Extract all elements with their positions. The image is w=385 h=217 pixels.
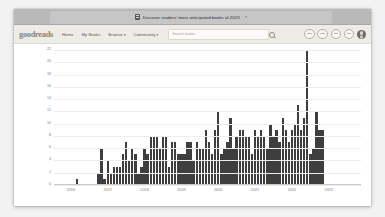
chart-bar[interactable] — [177, 154, 179, 185]
browser-tab-title: Discover readers' most anticipated books… — [143, 15, 240, 20]
nav-item-browse-label: Browse — [108, 32, 122, 37]
gridline — [54, 173, 361, 174]
nav-item-home-label: Home — [62, 32, 73, 37]
chart-bar[interactable] — [119, 167, 121, 185]
x-axis-tick-label: 2016 — [67, 189, 75, 193]
chart-bar[interactable] — [321, 130, 323, 185]
chart-bar[interactable] — [239, 130, 241, 185]
chart-bar[interactable] — [254, 130, 256, 185]
avatar[interactable] — [357, 30, 366, 39]
gridline — [54, 75, 361, 76]
bar-chart: 0246810121416182022201620172018201920202… — [14, 44, 371, 206]
y-axis-tick-label: 20 — [47, 60, 51, 64]
y-axis-tick-label: 16 — [47, 85, 51, 89]
nav-item-browse[interactable]: Browse▾ — [108, 32, 125, 37]
chart-bar[interactable] — [294, 124, 296, 185]
gridline — [54, 111, 361, 112]
chart-bar[interactable] — [116, 167, 118, 185]
chart-bar[interactable] — [159, 148, 161, 185]
page-content: 0246810121416182022201620172018201920202… — [14, 44, 371, 206]
chart-bar[interactable] — [251, 154, 253, 185]
x-axis-tick-label: 2017 — [103, 189, 111, 193]
navbar-icon-group — [304, 29, 367, 40]
browser-window: Discover readers' most anticipated books… — [14, 9, 371, 206]
browser-tab[interactable]: Discover readers' most anticipated books… — [50, 11, 332, 25]
notifications-icon[interactable] — [304, 29, 315, 40]
nav-item-my-books-label: My Books — [81, 32, 100, 37]
chart-plot-area: 0246810121416182022201620172018201920202… — [54, 50, 361, 185]
y-axis-tick-label: 10 — [47, 122, 51, 126]
goodreads-navbar: goodreads Home My Books Browse▾ Communit… — [14, 25, 371, 44]
search-icon[interactable] — [269, 32, 275, 38]
gridline — [54, 87, 361, 88]
chart-bar[interactable] — [220, 154, 222, 185]
chart-bar[interactable] — [266, 148, 268, 185]
chart-bar[interactable] — [205, 130, 207, 185]
gridline — [54, 136, 361, 137]
chart-bar[interactable] — [291, 130, 293, 185]
chart-bar[interactable] — [269, 124, 271, 185]
chart-bar[interactable] — [285, 130, 287, 185]
chevron-down-icon: ▾ — [157, 33, 159, 37]
chart-bar[interactable] — [306, 50, 308, 185]
chart-bar[interactable] — [318, 130, 320, 185]
chart-bar[interactable] — [211, 154, 213, 185]
nav-item-home[interactable]: Home — [62, 32, 73, 37]
y-axis-tick-label: 6 — [49, 146, 51, 150]
browser-tab-strip: Discover readers' most anticipated books… — [14, 9, 371, 25]
gridline — [54, 148, 361, 149]
x-axis-tick-label: 2018 — [140, 189, 148, 193]
chart-bar[interactable] — [100, 148, 102, 185]
goodreads-logo[interactable]: goodreads — [19, 29, 53, 39]
chevron-down-icon: ▾ — [124, 33, 126, 37]
gridline — [54, 99, 361, 100]
y-axis-tick-label: 22 — [47, 48, 51, 52]
chart-bar[interactable] — [183, 154, 185, 185]
close-icon[interactable]: × — [245, 15, 248, 19]
chart-bar[interactable] — [146, 154, 148, 185]
chart-bar[interactable] — [202, 148, 204, 185]
chart-bar[interactable] — [199, 148, 201, 185]
chart-bar[interactable] — [168, 167, 170, 185]
chart-bar[interactable] — [300, 130, 302, 185]
y-axis-tick-label: 4 — [49, 159, 51, 163]
gridline — [54, 185, 361, 186]
chart-bar[interactable] — [223, 148, 225, 185]
y-axis-tick-label: 8 — [49, 134, 51, 138]
x-axis-tick-label: 2019 — [177, 189, 185, 193]
chart-bar[interactable] — [303, 118, 305, 186]
chart-bar[interactable] — [260, 130, 262, 185]
messages-icon[interactable] — [331, 29, 342, 40]
chart-bar[interactable] — [229, 118, 231, 186]
x-axis-tick-label: 2022 — [288, 189, 296, 193]
nav-item-community[interactable]: Community▾ — [134, 32, 159, 37]
updates-icon[interactable] — [344, 29, 355, 40]
chart-bar[interactable] — [131, 148, 133, 185]
search-input[interactable]: Search books — [168, 29, 269, 40]
chart-bar[interactable] — [122, 154, 124, 185]
screenshot-root: Discover readers' most anticipated books… — [0, 0, 385, 217]
chart-bar[interactable] — [113, 167, 115, 185]
y-axis-tick-label: 0 — [49, 183, 51, 187]
y-axis-tick-label: 12 — [47, 110, 51, 114]
y-axis-tick-label: 14 — [47, 97, 51, 101]
book-icon — [135, 14, 140, 20]
y-axis-tick-label: 18 — [47, 73, 51, 77]
chart-bar[interactable] — [134, 154, 136, 185]
gridline — [54, 160, 361, 161]
chart-bar[interactable] — [140, 167, 142, 185]
nav-item-community-label: Community — [134, 32, 156, 37]
friends-icon[interactable] — [317, 29, 328, 40]
chart-bar[interactable] — [143, 148, 145, 185]
chart-bar[interactable] — [309, 154, 311, 185]
nav-item-my-books[interactable]: My Books — [81, 32, 100, 37]
chart-bar[interactable] — [180, 154, 182, 185]
chart-bar[interactable] — [312, 148, 314, 185]
chart-bar[interactable] — [214, 130, 216, 185]
chart-bar[interactable] — [232, 148, 234, 185]
chart-bar[interactable] — [282, 118, 284, 186]
chart-bar[interactable] — [242, 130, 244, 185]
gridline — [54, 124, 361, 125]
chart-bar[interactable] — [275, 130, 277, 185]
x-axis-tick-label: 2020 — [214, 189, 222, 193]
